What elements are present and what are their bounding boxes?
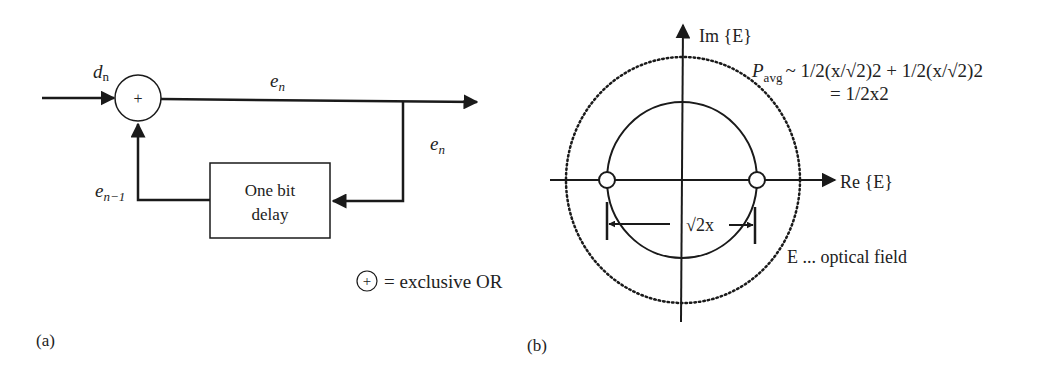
delay-box-line1: One bit	[245, 181, 296, 200]
one-bit-delay-box: One bit delay	[210, 163, 330, 238]
im-axis-label: Im {E}	[699, 26, 752, 46]
optical-field-label: E ... optical field	[787, 247, 907, 267]
delayed-feedback-line	[138, 124, 210, 200]
xor-gate: +	[115, 75, 161, 121]
xor-symbol: +	[133, 90, 142, 107]
output-label-en: en	[270, 70, 285, 94]
feedback-branch-line	[333, 101, 403, 201]
feedback-label-en-1: en−1	[95, 180, 125, 204]
delay-box-line2: delay	[252, 205, 289, 224]
panel-b-constellation: √2x Im {E} Re {E} Pavg~ 1/2(x/√2)2 + 1/2…	[527, 25, 983, 355]
constellation-point-right	[749, 172, 765, 188]
pavg-line2: = 1/2x2	[830, 83, 889, 104]
constellation-point-left	[599, 172, 615, 188]
legend-text: = exclusive OR	[384, 271, 503, 292]
legend-xor-symbol: +	[363, 273, 371, 289]
panel-a-caption: (a)	[36, 331, 55, 350]
pavg-line1: Pavg~ 1/2(x/√2)2 + 1/2(x/√2)2	[751, 60, 983, 85]
xor-legend: + = exclusive OR	[357, 271, 503, 292]
imaginary-axis	[681, 25, 683, 322]
re-axis-label: Re {E}	[840, 172, 893, 192]
figure-canvas: + One bit delay dn en en en−1 + = exclus…	[0, 0, 1049, 371]
panel-a-block-diagram: + One bit delay dn en en en−1 + = exclus…	[36, 61, 503, 350]
average-power-formula: Pavg~ 1/2(x/√2)2 + 1/2(x/√2)2 = 1/2x2	[751, 60, 983, 104]
panel-b-caption: (b)	[527, 336, 547, 355]
input-label-d: dn	[93, 61, 110, 84]
branch-label-en: en	[430, 133, 445, 157]
output-signal-line	[161, 99, 477, 102]
distance-label: √2x	[686, 215, 714, 235]
